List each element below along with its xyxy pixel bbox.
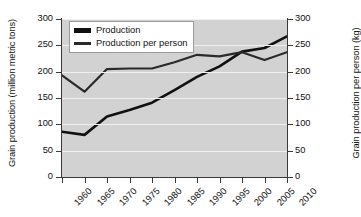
gridline	[62, 72, 287, 73]
y-axis-left-tick-label: 0	[19, 171, 53, 181]
y-axis-left-tick-label: 300	[19, 13, 53, 23]
y-axis-left-spine	[61, 18, 62, 178]
y-axis-left-tick	[56, 177, 61, 178]
y-axis-right-tick	[288, 45, 293, 46]
x-axis-tick-label: 1985	[185, 186, 207, 208]
x-axis-tick	[130, 178, 131, 183]
x-axis-tick-label: 1960	[72, 186, 94, 208]
x-axis-tick	[85, 178, 86, 183]
y-axis-right-tick	[288, 19, 293, 20]
y-axis-right-tick	[288, 177, 293, 178]
legend-swatch-production	[74, 28, 91, 32]
x-axis-tick-label: 1975	[140, 186, 162, 208]
legend-label-production: Production	[96, 25, 140, 36]
x-axis-tick	[220, 178, 221, 183]
y-axis-left-title: Grain production (million metric tons)	[7, 8, 17, 178]
y-axis-left-tick-label: 150	[19, 92, 53, 102]
x-axis-tick-label: 1970	[117, 186, 139, 208]
y-axis-left-tick	[56, 98, 61, 99]
y-axis-left-tick	[56, 19, 61, 20]
x-axis-tick-label: 1980	[162, 186, 184, 208]
legend-item-production-per-person: Production per person	[74, 38, 187, 49]
y-axis-right-tick	[288, 151, 293, 152]
x-axis-tick	[107, 178, 108, 183]
y-axis-right-title: Grain production per person (kg)	[351, 8, 361, 178]
y-axis-right-tick-label: 300	[295, 13, 329, 23]
chart-legend: Production Production per person	[69, 21, 194, 53]
x-axis-tick-label: 2000	[252, 186, 274, 208]
gridline	[62, 151, 287, 152]
legend-label-production-per-person: Production per person	[96, 38, 187, 49]
x-axis-tick	[265, 178, 266, 183]
y-axis-right-tick-label: 250	[295, 39, 329, 49]
y-axis-left-tick	[56, 151, 61, 152]
x-axis-tick	[152, 178, 153, 183]
y-axis-left-tick	[56, 124, 61, 125]
y-axis-left-tick-label: 200	[19, 66, 53, 76]
x-axis-tick	[175, 178, 176, 183]
y-axis-right-tick-label: 100	[295, 118, 329, 128]
y-axis-left-tick	[56, 45, 61, 46]
x-axis-tick	[287, 178, 288, 183]
x-axis-tick-label: 2010	[297, 186, 319, 208]
y-axis-right-tick-label: 200	[295, 66, 329, 76]
legend-item-production: Production	[74, 25, 187, 36]
x-axis-tick-label: 2005	[275, 186, 297, 208]
x-axis-tick-label: 1990	[207, 186, 229, 208]
legend-swatch-production-per-person	[74, 42, 91, 46]
y-axis-right-tick	[288, 72, 293, 73]
y-axis-right-tick	[288, 98, 293, 99]
x-axis-tick	[197, 178, 198, 183]
y-axis-left-tick	[56, 72, 61, 73]
x-axis-tick	[62, 178, 63, 183]
y-axis-left-tick-label: 50	[19, 145, 53, 155]
x-axis-tick-label: 1965	[95, 186, 117, 208]
x-axis-tick	[242, 178, 243, 183]
y-axis-right-tick-label: 150	[295, 92, 329, 102]
gridline	[62, 124, 287, 125]
gridline	[62, 19, 287, 20]
y-axis-right-tick	[288, 124, 293, 125]
x-axis-tick-label: 1995	[230, 186, 252, 208]
y-axis-right-tick-label: 0	[295, 171, 329, 181]
y-axis-left-tick-label: 100	[19, 118, 53, 128]
y-axis-left-tick-label: 250	[19, 39, 53, 49]
y-axis-right-tick-label: 50	[295, 145, 329, 155]
gridline	[62, 98, 287, 99]
